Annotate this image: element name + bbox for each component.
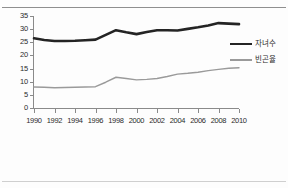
series-lines (34, 16, 239, 108)
x-axis-tick (34, 109, 35, 113)
legend-label-children: 자녀수 (255, 37, 275, 48)
bottom-divider (2, 181, 286, 182)
plot-area (34, 16, 239, 108)
x-axis-tick (239, 109, 240, 113)
legend-item-children: 자녀수 (230, 36, 288, 52)
x-axis-tick (157, 109, 158, 113)
legend-swatch-icon-poverty (230, 59, 252, 60)
y-axis-tick-label: 30 (20, 25, 28, 33)
x-axis-tick (137, 109, 138, 113)
y-axis-tick-label: 5 (24, 91, 28, 99)
y-axis-tick-label: 35 (20, 12, 28, 20)
line-chart: 05101520253035 1990199219941996199820002… (0, 0, 288, 188)
legend-label-poverty: 빈곤율 (255, 53, 275, 64)
x-axis-tick (178, 109, 179, 113)
x-axis-tick (198, 109, 199, 113)
top-divider (2, 7, 286, 8)
y-axis-tick-label: 20 (20, 51, 28, 59)
legend-item-poverty: 빈곤율 (230, 52, 288, 68)
x-axis-tick (219, 109, 220, 113)
chart-legend: 자녀수 빈곤율 (230, 36, 288, 68)
y-axis-tick-label: 15 (20, 65, 28, 73)
x-axis-tick (75, 109, 76, 113)
x-axis-tick-label: 2010 (226, 116, 252, 125)
y-axis-tick-label: 25 (20, 38, 28, 46)
legend-swatch-icon-children (230, 43, 252, 46)
y-axis-tick-label: 10 (20, 78, 28, 86)
x-axis-tick (116, 109, 117, 113)
y-axis-tick-label: 0 (24, 104, 28, 112)
x-axis-tick (55, 109, 56, 113)
series-line-children (34, 23, 239, 41)
series-line-poverty (34, 68, 239, 88)
x-axis-tick (96, 109, 97, 113)
